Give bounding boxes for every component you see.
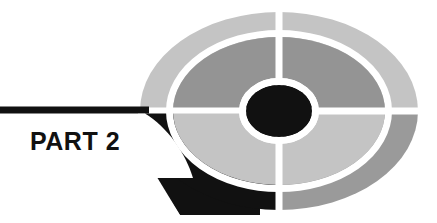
part-divider-page: PART 2 PART 2 [0, 0, 437, 223]
part-divider-artwork: PART 2 [0, 0, 437, 223]
core-ellipse-overlay [246, 85, 312, 137]
part-label: PART 2 [30, 127, 120, 155]
